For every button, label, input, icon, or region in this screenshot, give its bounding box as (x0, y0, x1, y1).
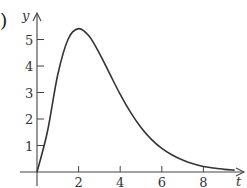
y-axis-ticks: 12345 (25, 33, 44, 154)
y-tick-label: 5 (25, 33, 33, 48)
y-tick-label: 4 (25, 59, 33, 74)
y-tick-label: 1 (25, 139, 33, 154)
y-tick-label: 2 (25, 112, 33, 127)
x-axis-label: t (236, 174, 242, 188)
chart-figure: ) 12345 2468 y t (0, 0, 247, 188)
x-tick-label: 4 (116, 175, 124, 188)
x-tick-label: 6 (158, 175, 166, 188)
subfigure-label: ) (0, 9, 7, 31)
y-tick-label: 3 (25, 86, 33, 101)
x-axis-ticks: 2468 (74, 166, 207, 188)
x-tick-label: 2 (74, 175, 82, 188)
x-tick-label: 8 (199, 175, 207, 188)
y-axis-label: y (21, 8, 30, 23)
data-curve (37, 29, 235, 172)
